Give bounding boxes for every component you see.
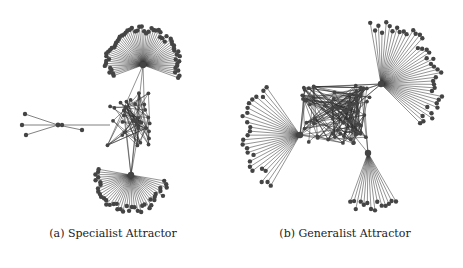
caption-specialist: (a) Specialist Attractor (48, 227, 178, 240)
caption-generalist: (b) Generalist Attractor (275, 227, 415, 240)
specialist-attractor-graph (20, 24, 182, 214)
generalist-attractor-graph (240, 20, 444, 212)
network-figure (0, 0, 463, 225)
